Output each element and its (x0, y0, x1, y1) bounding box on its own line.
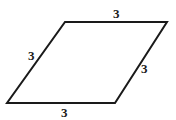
rhombus-diagram: 3 3 3 3 (0, 0, 176, 120)
side-label-right: 3 (141, 61, 148, 76)
side-label-top: 3 (113, 6, 120, 21)
side-label-left: 3 (28, 48, 35, 63)
side-label-bottom: 3 (61, 105, 68, 120)
